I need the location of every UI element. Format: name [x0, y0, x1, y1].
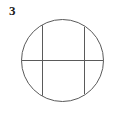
- figure-container: 3: [0, 0, 117, 116]
- geometry-diagram: [0, 0, 117, 116]
